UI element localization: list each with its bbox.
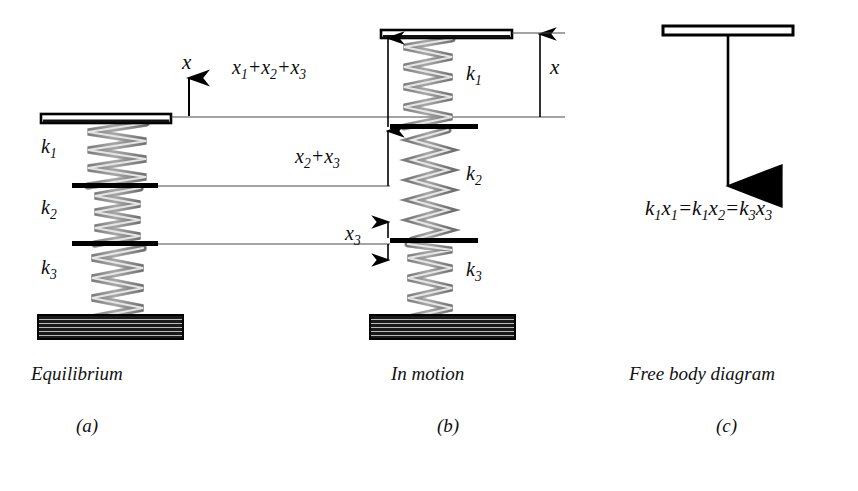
caption-panel-c: Free body diagram (629, 363, 775, 385)
caption-panel-a: Equilibrium (31, 363, 123, 385)
dimension-label-lower-two: x2+x3 (295, 145, 340, 172)
panel-b-in-motion (370, 30, 515, 339)
spring-k3-panel-a (92, 248, 143, 318)
x-axis-label-panel-a: x (182, 50, 191, 75)
spring-system-figure: k1 k2 k3 x k1 k2 k3 x1+x2+x3 x2+x3 x3 x … (0, 0, 858, 491)
free-body-force-equation: k1x1=k1x2=k3x3 (645, 196, 772, 224)
spring-constant-k1-label-panel-a: k1 (41, 135, 57, 162)
spring-constant-k2-label-panel-a: k2 (41, 196, 57, 223)
middle-plate-1-panel-b (390, 124, 478, 129)
fbd-plate (663, 26, 793, 35)
panel-c-free-body (663, 26, 793, 186)
ground-block-panel-b (370, 315, 515, 339)
top-plate-panel-a (41, 114, 171, 123)
spring-constant-k3-label-panel-b: k3 (466, 258, 482, 285)
spring-constant-k3-label-panel-a: k3 (41, 256, 57, 283)
middle-plate-1-panel-a (72, 183, 158, 188)
ground-block-panel-a (38, 315, 183, 339)
spring-k1-panel-b (404, 39, 452, 127)
spring-constant-k1-label-panel-b: k1 (466, 62, 482, 89)
displacement-label-panel-b: x (550, 55, 559, 80)
dimension-label-bottom: x3 (345, 222, 361, 249)
middle-plate-2-panel-b (390, 238, 478, 243)
reference-lines (158, 117, 565, 244)
caption-letter-panel-a: (a) (76, 415, 98, 437)
middle-plate-2-panel-a (72, 241, 158, 246)
spring-k2-panel-b (412, 130, 448, 240)
spring-k3-panel-b (408, 244, 452, 318)
caption-letter-panel-c: (c) (716, 415, 737, 437)
spring-k1-panel-a (88, 123, 146, 186)
caption-panel-b: In motion (391, 363, 464, 385)
spring-constant-k2-label-panel-b: k2 (466, 162, 482, 189)
caption-letter-panel-b: (b) (437, 415, 459, 437)
spring-k2-panel-a (95, 188, 140, 244)
dimension-label-total-displacement: x1+x2+x3 (232, 56, 306, 83)
panel-a-equilibrium (38, 78, 189, 339)
top-plate-panel-b (381, 30, 512, 38)
